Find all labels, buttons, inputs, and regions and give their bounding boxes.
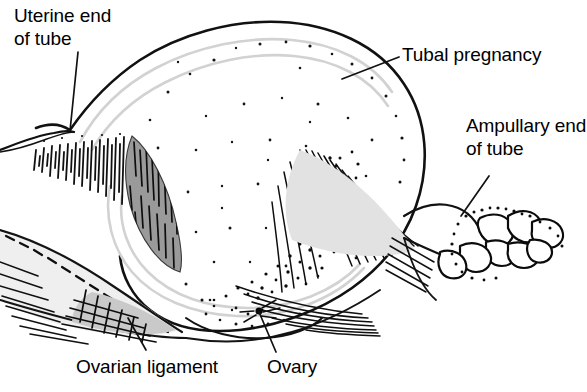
- uterine-fringe-hatching: [34, 137, 124, 204]
- label-tubal-pregnancy: Tubal pregnancy: [402, 43, 541, 66]
- label-uterine-end-line1: Uterine end: [14, 5, 111, 26]
- label-ampullary-end-line2: of tube: [466, 138, 523, 159]
- label-ovary-line1: Ovary: [267, 356, 317, 377]
- label-ovary: Ovary: [267, 355, 317, 378]
- uterine-cornu-edge: [0, 132, 74, 152]
- label-ampullary-end-of-tube: Ampullary endof tube: [466, 114, 586, 160]
- label-uterine-end-line2: of tube: [14, 28, 71, 49]
- label-ovarian-ligament: Ovarian ligament: [76, 355, 218, 378]
- label-uterine-end-of-tube: Uterine endof tube: [14, 4, 111, 50]
- label-ovarian-ligament-line1: Ovarian ligament: [76, 356, 218, 377]
- label-tubal-pregnancy-line1: Tubal pregnancy: [402, 44, 541, 65]
- ectopic-pregnancy-figure: Uterine endof tube Tubal pregnancy Ampul…: [0, 0, 587, 392]
- ampullary-end-leader: [461, 176, 489, 216]
- label-ampullary-end-line1: Ampullary end: [466, 115, 586, 136]
- ampullary-end-fimbriae: [386, 204, 564, 300]
